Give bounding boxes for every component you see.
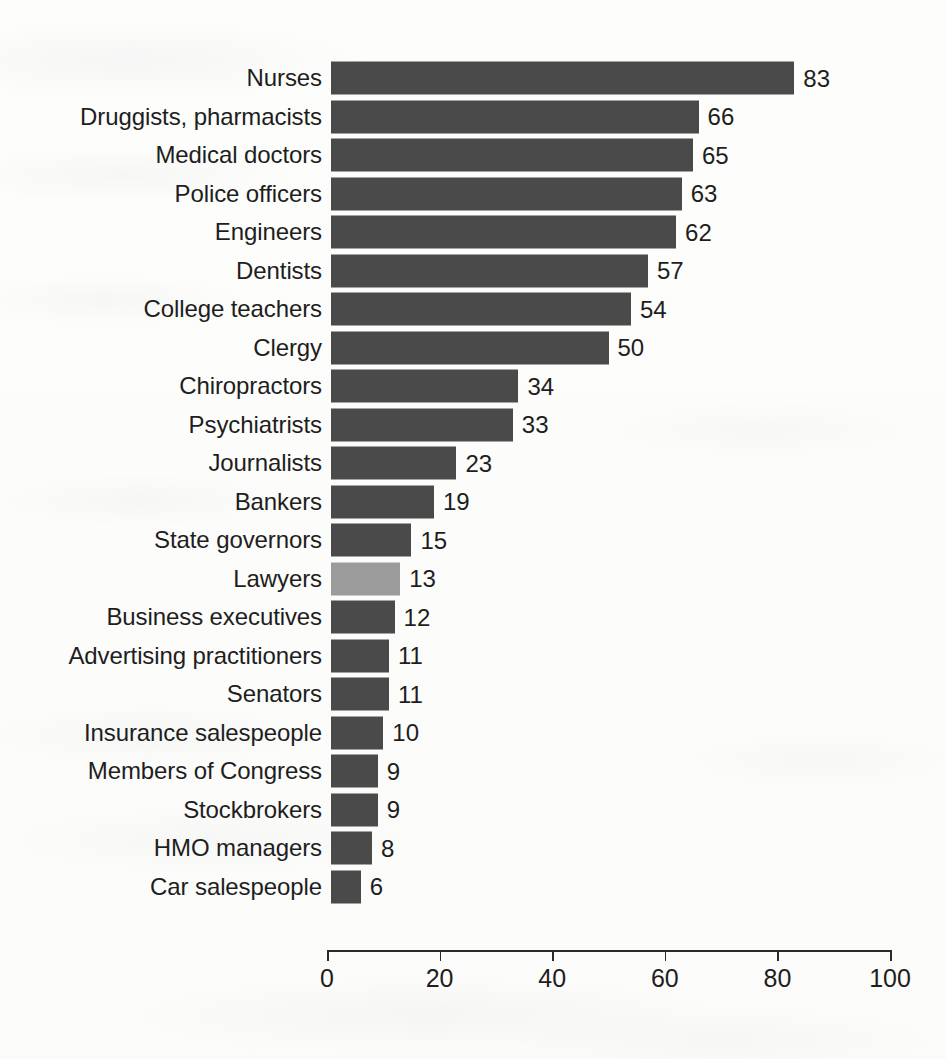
bar-value-label: 66 bbox=[708, 105, 735, 129]
category-label: Chiropractors bbox=[179, 374, 322, 398]
bar-and-value: 63 bbox=[331, 177, 717, 210]
bar bbox=[331, 408, 513, 441]
bar-value-label: 13 bbox=[409, 567, 436, 591]
category-label: Bankers bbox=[235, 490, 322, 514]
bar-row: College teachers54 bbox=[0, 290, 946, 329]
bar-value-label: 6 bbox=[370, 875, 383, 899]
bar-value-label: 83 bbox=[803, 66, 830, 90]
bar-and-value: 65 bbox=[331, 139, 729, 172]
bar bbox=[331, 793, 378, 826]
bar-and-value: 6 bbox=[331, 870, 383, 903]
bar-and-value: 9 bbox=[331, 755, 400, 788]
bar-row: Psychiatrists33 bbox=[0, 406, 946, 445]
bar-and-value: 11 bbox=[331, 678, 423, 711]
bar-row: Insurance salespeople10 bbox=[0, 714, 946, 753]
bar-value-label: 63 bbox=[691, 182, 718, 206]
category-label: Members of Congress bbox=[88, 759, 322, 783]
bar-value-label: 9 bbox=[387, 798, 400, 822]
bar bbox=[331, 870, 361, 903]
category-label: Senators bbox=[227, 682, 322, 706]
bar bbox=[331, 370, 518, 403]
bar-row: Chiropractors34 bbox=[0, 367, 946, 406]
bar-value-label: 65 bbox=[702, 143, 729, 167]
bar-and-value: 83 bbox=[331, 62, 830, 95]
bar-and-value: 50 bbox=[331, 331, 644, 364]
bar-row: Stockbrokers9 bbox=[0, 791, 946, 830]
category-label: Police officers bbox=[175, 182, 322, 206]
bar-row: Bankers19 bbox=[0, 483, 946, 522]
bar bbox=[331, 62, 794, 95]
bar-value-label: 54 bbox=[640, 297, 667, 321]
bar bbox=[331, 755, 378, 788]
category-label: College teachers bbox=[143, 297, 322, 321]
category-label: Medical doctors bbox=[155, 143, 322, 167]
bar-and-value: 13 bbox=[331, 562, 436, 595]
bar-value-label: 12 bbox=[404, 605, 431, 629]
bar-and-value: 8 bbox=[331, 832, 394, 865]
bar bbox=[331, 254, 648, 287]
bar bbox=[331, 139, 693, 172]
bar-and-value: 57 bbox=[331, 254, 684, 287]
bar-value-label: 8 bbox=[381, 836, 394, 860]
bar-row: Journalists23 bbox=[0, 444, 946, 483]
category-label: Lawyers bbox=[233, 567, 322, 591]
bar-and-value: 12 bbox=[331, 601, 430, 634]
bar-row: Medical doctors65 bbox=[0, 136, 946, 175]
bar-row: Advertising practitioners11 bbox=[0, 637, 946, 676]
bar-row: HMO managers8 bbox=[0, 829, 946, 868]
bar-value-label: 10 bbox=[392, 721, 419, 745]
category-label: Druggists, pharmacists bbox=[80, 105, 322, 129]
category-label: Journalists bbox=[208, 451, 322, 475]
bar-row: State governors15 bbox=[0, 521, 946, 560]
category-label: Car salespeople bbox=[150, 875, 322, 899]
category-label: Dentists bbox=[236, 259, 322, 283]
bar-and-value: 33 bbox=[331, 408, 548, 441]
bar bbox=[331, 601, 395, 634]
bar bbox=[331, 177, 682, 210]
bar bbox=[331, 524, 411, 557]
category-label: Business executives bbox=[106, 605, 322, 629]
bar-and-value: 54 bbox=[331, 293, 667, 326]
bar bbox=[331, 678, 389, 711]
category-label: Advertising practitioners bbox=[68, 644, 322, 668]
category-label: Nurses bbox=[247, 66, 322, 90]
category-label: State governors bbox=[154, 528, 322, 552]
bar bbox=[331, 832, 372, 865]
bar-highlighted bbox=[331, 562, 400, 595]
bar-and-value: 11 bbox=[331, 639, 423, 672]
bar-row: Lawyers13 bbox=[0, 560, 946, 599]
bar bbox=[331, 639, 389, 672]
bar-row: Police officers63 bbox=[0, 175, 946, 214]
bar-and-value: 19 bbox=[331, 485, 470, 518]
bar bbox=[331, 216, 676, 249]
category-label: Clergy bbox=[253, 336, 322, 360]
bar-row: Senators11 bbox=[0, 675, 946, 714]
bar bbox=[331, 716, 383, 749]
bar-row: Nurses83 bbox=[0, 59, 946, 98]
bar-and-value: 62 bbox=[331, 216, 712, 249]
bar-row: Car salespeople6 bbox=[0, 868, 946, 907]
horizontal-bar-chart: Nurses83Druggists, pharmacists66Medical … bbox=[0, 0, 946, 1059]
bar-value-label: 57 bbox=[657, 259, 684, 283]
bar-and-value: 9 bbox=[331, 793, 400, 826]
bar-row: Clergy50 bbox=[0, 329, 946, 368]
bar-row: Dentists57 bbox=[0, 252, 946, 291]
bar-row: Members of Congress9 bbox=[0, 752, 946, 791]
bar-value-label: 23 bbox=[465, 451, 492, 475]
bar-value-label: 19 bbox=[443, 490, 470, 514]
bar-value-label: 15 bbox=[420, 528, 447, 552]
bar bbox=[331, 485, 434, 518]
bar-value-label: 33 bbox=[522, 413, 549, 437]
bar bbox=[331, 447, 456, 480]
category-label: Insurance salespeople bbox=[84, 721, 322, 745]
bar-value-label: 11 bbox=[398, 682, 423, 706]
bar-value-label: 50 bbox=[618, 336, 645, 360]
bar-and-value: 15 bbox=[331, 524, 447, 557]
bar-row: Druggists, pharmacists66 bbox=[0, 98, 946, 137]
bar-row: Business executives12 bbox=[0, 598, 946, 637]
category-label: Stockbrokers bbox=[183, 798, 322, 822]
bar-and-value: 66 bbox=[331, 100, 734, 133]
bar-row: Engineers62 bbox=[0, 213, 946, 252]
bar bbox=[331, 100, 699, 133]
bar-and-value: 34 bbox=[331, 370, 554, 403]
